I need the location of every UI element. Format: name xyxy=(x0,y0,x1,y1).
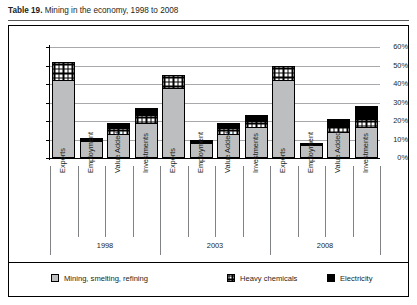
bar-segment-grid xyxy=(272,66,295,81)
bar-segment-grey xyxy=(272,80,295,158)
legend-label: Electricity xyxy=(340,274,373,283)
category-separator xyxy=(188,166,189,237)
x-axis-line xyxy=(50,158,380,159)
table-caption: Mining in the economy, 1998 to 2008 xyxy=(45,6,179,15)
category-separator xyxy=(243,166,244,237)
legend-divider xyxy=(9,262,408,263)
gridline xyxy=(50,103,380,104)
category-label-exports: Exports xyxy=(279,148,287,173)
gridline xyxy=(50,47,380,48)
plot-area xyxy=(50,47,380,158)
category-label-employment: Employment xyxy=(197,132,205,173)
legend-label: Mining, smelting, refining xyxy=(64,274,148,283)
grey-square-icon xyxy=(51,274,59,282)
category-label-investments: Investments xyxy=(142,133,150,173)
group-label-2003: 2003 xyxy=(160,241,270,250)
legend-item-electricity: Electricity xyxy=(327,273,373,285)
category-separator xyxy=(78,166,79,237)
category-separator xyxy=(160,166,161,237)
bar-segment-grid xyxy=(162,75,185,88)
legend-label: Heavy chemicals xyxy=(240,274,297,283)
group-label-2008: 2008 xyxy=(270,241,380,250)
chart-container: 0%10%20%30%40%50%60% ExportsEmploymentVa… xyxy=(8,25,409,297)
group-separator xyxy=(50,237,51,255)
group-separator xyxy=(270,237,271,255)
group-separator xyxy=(380,237,381,255)
y-axis-tick-mark xyxy=(46,158,50,159)
black-square-icon xyxy=(327,274,335,282)
legend-item-chemicals: Heavy chemicals xyxy=(227,273,297,285)
category-label-value-added: Value Added xyxy=(334,132,342,173)
category-separator xyxy=(133,166,134,237)
bar-segment-black xyxy=(355,106,378,119)
legend-item-mining: Mining, smelting, refining xyxy=(51,273,148,285)
category-label-exports: Exports xyxy=(169,148,177,173)
bar-1998-exports xyxy=(52,62,75,158)
category-label-value-added: Value Added xyxy=(224,132,232,173)
category-label-investments: Investments xyxy=(252,133,260,173)
title-divider xyxy=(8,20,409,21)
grid-pattern-square-icon xyxy=(227,274,235,282)
group-label-1998: 1998 xyxy=(50,241,160,250)
group-separator xyxy=(160,237,161,255)
bar-segment-grid xyxy=(355,119,378,126)
category-separator xyxy=(215,166,216,237)
bar-2008-exports xyxy=(272,66,295,158)
bar-segment-black xyxy=(135,108,158,115)
category-label-employment: Employment xyxy=(307,132,315,173)
category-separator xyxy=(380,166,381,237)
category-label-value-added: Value Added xyxy=(114,132,122,173)
bar-segment-grey xyxy=(52,80,75,158)
bar-segment-grid xyxy=(52,62,75,81)
bar-segment-grid xyxy=(135,115,158,122)
gridline xyxy=(50,66,380,67)
bar-2003-exports xyxy=(162,75,185,158)
table-number: Table 19. xyxy=(8,6,42,15)
category-separator xyxy=(50,166,51,237)
category-separator xyxy=(298,166,299,237)
category-separator xyxy=(105,166,106,237)
category-separator xyxy=(325,166,326,237)
category-label-exports: Exports xyxy=(59,148,67,173)
category-separator xyxy=(353,166,354,237)
category-label-employment: Employment xyxy=(87,132,95,173)
gridline xyxy=(50,84,380,85)
category-separator xyxy=(270,166,271,237)
category-label-investments: Investments xyxy=(362,133,370,173)
